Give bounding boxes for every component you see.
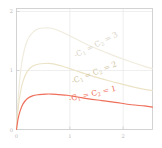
y-tick-label-0: 0 xyxy=(10,127,13,133)
x-tick-label-2: 2 xyxy=(122,133,125,139)
x-tick-label-1: 1 xyxy=(68,133,71,139)
line-chart: 012012 -C1 = C2 = 3-C1 = C2 = 2-C1 = C2 … xyxy=(0,0,162,148)
x-tick-label-0: 0 xyxy=(15,133,18,139)
y-tick-label-1: 1 xyxy=(10,67,13,73)
y-tick-label-2: 2 xyxy=(10,8,13,14)
chart-container: 012012 -C1 = C2 = 3-C1 = C2 = 2-C1 = C2 … xyxy=(0,0,162,148)
